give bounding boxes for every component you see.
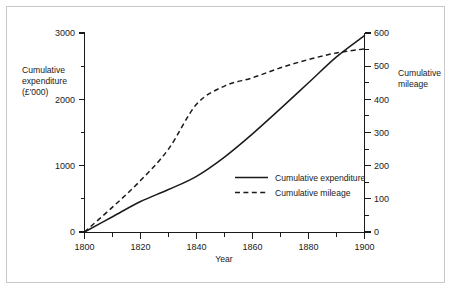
y-axis-left-tick-label: 1000	[55, 161, 75, 171]
series-line-cumulative-mileage	[85, 49, 365, 232]
y-axis-right-tick-label: 100	[374, 194, 389, 204]
y-axis-right-title-line1: Cumulative	[398, 68, 441, 78]
y-axis-left-tick-label: 2000	[55, 95, 75, 105]
legend: Cumulative expenditure Cumulative mileag…	[235, 173, 366, 198]
y-axis-left-ticks	[79, 33, 85, 232]
y-axis-right-tick-label: 400	[374, 95, 389, 105]
x-axis-title: Year	[215, 254, 233, 264]
x-axis-ticks	[85, 233, 365, 239]
x-axis-tick-label: 1800	[74, 242, 94, 252]
line-chart: 3000 2000 1000 0 Cumulative expenditure …	[0, 0, 453, 291]
y-axis-right-tick-label: 200	[374, 161, 389, 171]
x-axis-tick-label: 1880	[298, 242, 318, 252]
y-axis-right-tick-label: 500	[374, 61, 389, 71]
x-axis-tick-label: 1900	[354, 242, 374, 252]
y-axis-right-tick-label: 0	[374, 227, 379, 237]
legend-label-cumulative-expenditure: Cumulative expenditure	[275, 173, 366, 183]
legend-label-cumulative-mileage: Cumulative mileage	[275, 188, 351, 198]
y-axis-right-title-line2: mileage	[398, 79, 428, 89]
series-line-cumulative-expenditure	[85, 36, 365, 232]
y-axis-right-title: Cumulative mileage	[398, 68, 441, 89]
x-axis-tick-label: 1860	[242, 242, 262, 252]
y-axis-left-title: Cumulative expenditure (£'000)	[22, 65, 67, 97]
y-axis-right-ticks	[365, 33, 371, 232]
y-axis-right-tick-label: 600	[374, 28, 389, 38]
chart-figure: 3000 2000 1000 0 Cumulative expenditure …	[0, 0, 453, 291]
x-axis-tick-label: 1840	[186, 242, 206, 252]
y-axis-left-title-line2: expenditure	[22, 76, 67, 86]
x-axis-tick-label: 1820	[130, 242, 150, 252]
y-axis-left-title-line1: Cumulative	[22, 65, 65, 75]
y-axis-left-title-line3: (£'000)	[22, 87, 49, 97]
y-axis-right-tick-label: 300	[374, 128, 389, 138]
y-axis-left-tick-label: 3000	[55, 28, 75, 38]
y-axis-left-tick-label: 0	[70, 227, 75, 237]
